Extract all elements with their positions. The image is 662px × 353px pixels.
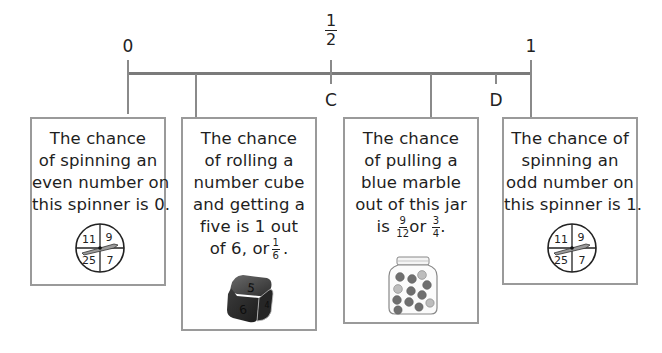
fraction-three-fourths: 34 bbox=[432, 216, 440, 239]
card-text: The chance of rolling a number cube and … bbox=[183, 128, 315, 261]
tick-zero bbox=[127, 60, 129, 114]
connector-card-jar bbox=[430, 74, 432, 119]
tick-half bbox=[330, 60, 332, 84]
svg-text:11: 11 bbox=[82, 233, 96, 246]
card-text: The chance of spinning an odd number on … bbox=[504, 128, 636, 216]
card-text: The chance of spinning an even number on… bbox=[32, 128, 164, 216]
label-d: D bbox=[487, 92, 505, 109]
label-c: C bbox=[322, 92, 340, 109]
marble-jar-icon bbox=[385, 256, 441, 316]
svg-text:25: 25 bbox=[82, 254, 96, 267]
card-marble-jar: The chance of pulling a blue marble out … bbox=[343, 117, 479, 324]
card-text: The chance of pulling a blue marble out … bbox=[345, 128, 477, 239]
label-one-half: 1 2 bbox=[318, 13, 344, 48]
card-odd-spinner: The chance of spinning an odd number on … bbox=[502, 117, 638, 285]
label-one: 1 bbox=[523, 38, 539, 55]
fraction-nine-twelfths: 912 bbox=[396, 216, 409, 239]
label-zero: 0 bbox=[120, 38, 136, 55]
fraction-one-sixth: 16 bbox=[272, 238, 280, 261]
card-number-cube: The chance of rolling a number cube and … bbox=[181, 117, 317, 331]
svg-text:25: 25 bbox=[554, 254, 568, 267]
svg-text:7: 7 bbox=[579, 254, 586, 267]
tick-d bbox=[495, 74, 497, 84]
svg-text:7: 7 bbox=[107, 254, 114, 267]
svg-text:9: 9 bbox=[578, 231, 585, 244]
svg-text:4: 4 bbox=[264, 301, 269, 310]
tick-one bbox=[530, 60, 532, 118]
svg-text:11: 11 bbox=[554, 233, 568, 246]
spinner-icon: 11 9 25 7 bbox=[74, 222, 126, 274]
svg-text:9: 9 bbox=[106, 231, 113, 244]
spinner-icon: 11 9 25 7 bbox=[546, 222, 598, 274]
number-cube-icon: 5 6 4 bbox=[221, 272, 279, 324]
connector-card-cube bbox=[195, 74, 197, 119]
card-even-spinner: The chance of spinning an even number on… bbox=[30, 117, 166, 286]
